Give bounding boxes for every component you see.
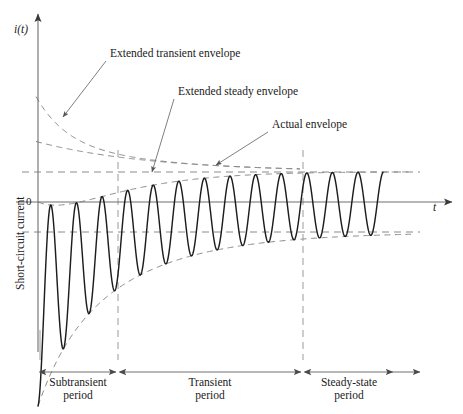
y-axis-title: i(t) — [14, 23, 28, 35]
envelope-curves — [36, 97, 411, 406]
annotation-leaders — [63, 61, 268, 172]
transient-period-label: Transientperiod — [140, 376, 280, 402]
short-circuit-current-figure — [0, 0, 463, 414]
actual-envelope-label: Actual envelope — [272, 118, 347, 130]
transient-period-label-line1: Transient — [140, 376, 280, 389]
extended-steady-envelope-label: Extended steady envelope — [178, 85, 298, 97]
subtransient-period-label-line2: period — [8, 389, 148, 402]
x-axis-title: t — [433, 201, 436, 213]
extended-transient-envelope-leader — [63, 61, 106, 117]
zero-tick-label: 0 — [26, 195, 32, 207]
subtransient-period-label: Subtransientperiod — [8, 376, 148, 402]
actual-envelope-leader — [216, 132, 268, 165]
y-axis-label: Short-circuit current — [14, 196, 26, 290]
period-dividers — [40, 150, 303, 360]
current-waveform — [38, 172, 383, 406]
subtransient-period-label-line1: Subtransient — [8, 376, 148, 389]
extended-transient-envelope-label: Extended transient envelope — [110, 47, 240, 59]
steady-state-period-label-line2: period — [279, 389, 419, 402]
steady-state-period-label: Steady-stateperiod — [279, 376, 419, 402]
steady-state-period-label-line1: Steady-state — [279, 376, 419, 389]
transient-period-label-line2: period — [140, 389, 280, 402]
axes — [16, 14, 452, 352]
